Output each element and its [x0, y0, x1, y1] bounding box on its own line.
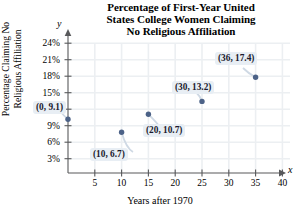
x-tick-label-15: 15: [138, 178, 158, 188]
x-tick-label-30: 30: [219, 178, 239, 188]
y-tick-label-3: 3%: [30, 154, 60, 164]
x-tick-label-35: 35: [246, 178, 266, 188]
y-tick-label-24: 24%: [30, 38, 60, 48]
y-tick-label-6: 6%: [30, 137, 60, 147]
data-point-marker: [146, 112, 151, 117]
x-tick-label-10: 10: [112, 178, 132, 188]
x-tick-label-25: 25: [192, 178, 212, 188]
x-tick-label-40: 40: [272, 178, 292, 188]
data-point-marker: [65, 117, 70, 122]
data-point-callout-10: (10, 6.7): [90, 148, 128, 161]
y-tick-label-9: 9%: [30, 121, 60, 131]
y-tick-label-15: 15%: [30, 88, 60, 98]
x-axis-line: [68, 170, 286, 177]
data-point-marker: [253, 75, 258, 80]
callout-leader-lines: [60, 68, 256, 152]
x-tick-label-5: 5: [85, 178, 105, 188]
data-point-callout-20: (20, 10.7): [143, 124, 185, 137]
data-point-marker: [199, 99, 204, 104]
data-point-marker: [119, 130, 124, 135]
chart-figure: Percentage of First-Year United States C…: [0, 0, 302, 214]
y-tick-label-21: 21%: [30, 55, 60, 65]
x-tick-label-20: 20: [165, 178, 185, 188]
data-point-callout-30: (30, 13.2): [172, 81, 214, 94]
y-axis-line: [65, 29, 72, 173]
data-point-callout-0: (0, 9.1): [33, 101, 66, 114]
data-point-callout-36: (36, 17.4): [215, 52, 257, 65]
y-tick-label-18: 18%: [30, 71, 60, 81]
